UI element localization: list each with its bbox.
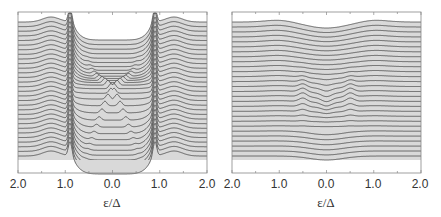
right-tick-p2: 2.0 bbox=[412, 177, 429, 191]
right-waterfall-plot bbox=[0, 0, 441, 180]
right-x-axis-title: ε/Δ bbox=[317, 195, 334, 211]
right-panel: 2.0 1.0 0.0 1.0 2.0 ε/Δ bbox=[0, 0, 441, 217]
right-tick-p1: 1.0 bbox=[365, 177, 382, 191]
right-tick-m2: 2.0 bbox=[224, 177, 241, 191]
right-tick-0: 0.0 bbox=[318, 177, 335, 191]
right-tick-m1: 1.0 bbox=[271, 177, 288, 191]
